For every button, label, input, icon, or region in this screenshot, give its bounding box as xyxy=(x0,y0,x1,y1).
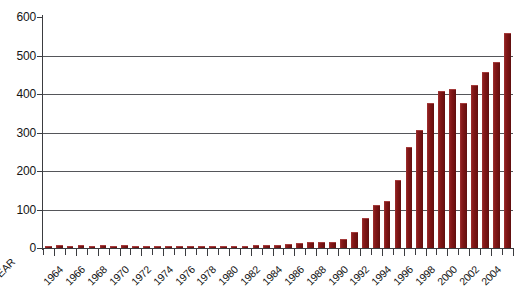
y-axis-tick xyxy=(37,248,43,249)
x-axis-tick-label: 1970 xyxy=(107,263,131,287)
y-axis-tick-label: 600 xyxy=(17,10,36,24)
bar xyxy=(493,62,500,248)
y-axis-tick xyxy=(37,171,43,172)
y-axis-labels: 0100200300400500600 xyxy=(0,0,36,290)
y-axis-tick xyxy=(37,17,43,18)
bar xyxy=(373,205,380,248)
bar xyxy=(427,103,434,248)
x-axis-tick-label: 1982 xyxy=(238,263,262,287)
y-axis-tick xyxy=(37,56,43,57)
y-axis-tick-label: 500 xyxy=(17,49,36,63)
x-axis-tick-label: 1972 xyxy=(128,263,152,287)
bar xyxy=(340,239,347,248)
y-axis-tick xyxy=(37,210,43,211)
x-axis-tick-label: 1974 xyxy=(150,263,174,287)
x-axis-tick-label: 1992 xyxy=(347,263,371,287)
y-axis-tick-label: 200 xyxy=(17,164,36,178)
bar xyxy=(460,103,467,248)
bar xyxy=(482,72,489,248)
x-axis-tick-label: 2000 xyxy=(434,263,458,287)
x-axis-tick-label: 2004 xyxy=(478,263,502,287)
x-axis-tick-label: 1988 xyxy=(303,263,327,287)
y-axis-tick-label: 400 xyxy=(17,87,36,101)
x-axis-tick-label: 1980 xyxy=(216,263,240,287)
x-axis-tick-label: 1984 xyxy=(260,263,284,287)
x-axis-tick-label: 1966 xyxy=(63,263,87,287)
bar xyxy=(438,91,445,248)
bar xyxy=(471,85,478,248)
x-axis-tick-label: 1994 xyxy=(369,263,393,287)
bar xyxy=(395,180,402,248)
x-axis-tick-label: 1976 xyxy=(172,263,196,287)
bar xyxy=(504,33,511,248)
x-axis-tick-label: 1998 xyxy=(413,263,437,287)
x-axis-tick-label: 2002 xyxy=(456,263,480,287)
bar xyxy=(406,147,413,248)
x-axis-tick-label: 1986 xyxy=(281,263,305,287)
x-axis-tick-label: 1968 xyxy=(85,263,109,287)
bar-chart: 0100200300400500600 19641966196819701972… xyxy=(0,0,528,290)
y-axis-tick xyxy=(37,133,43,134)
y-axis-tick xyxy=(37,94,43,95)
bar-series xyxy=(43,17,513,248)
bar xyxy=(416,130,423,248)
x-axis-tick-label: 1978 xyxy=(194,263,218,287)
x-axis-tick-label: 1996 xyxy=(391,263,415,287)
y-axis-tick-label: 100 xyxy=(17,203,36,217)
y-axis-tick-label: 300 xyxy=(17,126,36,140)
bar xyxy=(384,201,391,248)
x-axis-tick-label: 1990 xyxy=(325,263,349,287)
bar xyxy=(362,218,369,248)
x-axis-labels: 1964196619681970197219741976197819801982… xyxy=(0,255,528,290)
y-axis-tick-label: 0 xyxy=(30,241,36,255)
bar xyxy=(449,89,456,248)
bar xyxy=(351,232,358,248)
x-axis-tick-label: 1964 xyxy=(41,263,65,287)
